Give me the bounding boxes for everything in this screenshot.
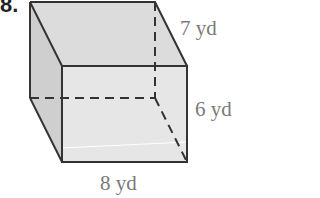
length-label: 8 yd [100, 171, 137, 196]
depth-label: 7 yd [180, 16, 217, 41]
height-label: 6 yd [195, 97, 232, 122]
